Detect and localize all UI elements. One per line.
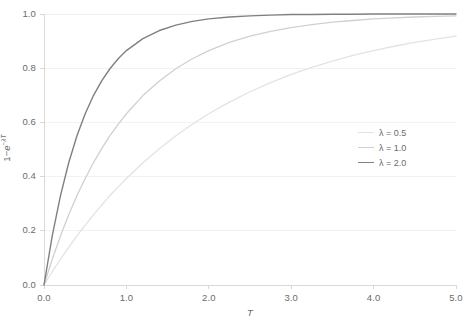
y-axis-title-text: 1−e−λT	[1, 134, 12, 161]
y-tick-label: 1.0	[0, 8, 36, 19]
x-axis-title: T	[44, 307, 456, 318]
legend-swatch-icon	[358, 162, 374, 163]
legend-item[interactable]: λ = 2.0	[358, 155, 406, 170]
y-tick-label: 0.2	[0, 224, 36, 235]
x-tick-label: 5.0	[436, 292, 465, 303]
x-tick-label: 3.0	[271, 292, 311, 303]
legend-label: λ = 0.5	[379, 128, 406, 138]
x-tick-label: 0.0	[24, 292, 64, 303]
chart-legend: λ = 0.5λ = 1.0λ = 2.0	[358, 125, 406, 170]
y-tick-label: 0.8	[0, 62, 36, 73]
legend-item[interactable]: λ = 1.0	[358, 140, 406, 155]
legend-item[interactable]: λ = 0.5	[358, 125, 406, 140]
x-tick-label: 4.0	[354, 292, 394, 303]
y-axis-title: 1−e−λT	[0, 116, 12, 180]
y-tick-label: 0.0	[0, 279, 36, 290]
x-tick-label: 1.0	[106, 292, 146, 303]
x-tick-label: 2.0	[189, 292, 229, 303]
legend-swatch-icon	[358, 147, 374, 148]
legend-label: λ = 2.0	[379, 158, 406, 168]
chart-container: 0.00.20.40.60.81.0 0.01.02.03.04.05.0 T …	[0, 0, 465, 323]
legend-label: λ = 1.0	[379, 143, 406, 153]
legend-swatch-icon	[358, 132, 374, 133]
